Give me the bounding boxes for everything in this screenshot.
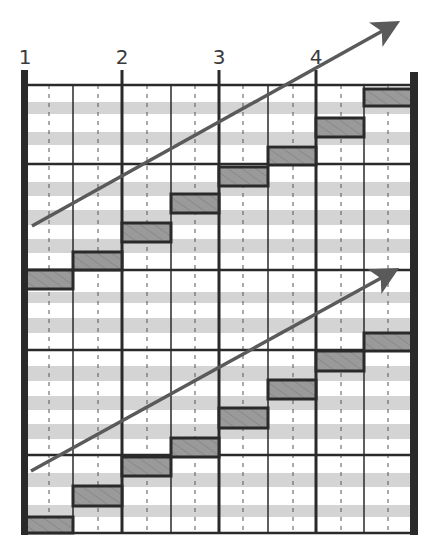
step-bar [364,89,413,106]
step-bar [122,457,171,476]
step-bar [25,517,73,533]
step-bar [316,351,364,371]
step-bar [364,333,413,351]
column-labels: 1234 [19,45,323,69]
step-bar [122,223,171,242]
step-bar [316,118,364,137]
step-pattern-diagram: 1234 [0,0,425,554]
column-label-4: 4 [310,45,323,69]
left-border [21,70,28,535]
step-bar [171,194,219,213]
step-bar [171,438,219,457]
step-bar [219,167,268,186]
step-bar [73,486,122,506]
step-bar [73,252,122,270]
right-border [410,72,418,535]
step-bar [268,380,316,399]
column-label-3: 3 [213,45,226,69]
column-label-2: 2 [116,45,129,69]
step-bar [219,408,268,428]
column-label-1: 1 [19,45,32,69]
step-bar [25,270,73,289]
step-bar [268,147,316,165]
